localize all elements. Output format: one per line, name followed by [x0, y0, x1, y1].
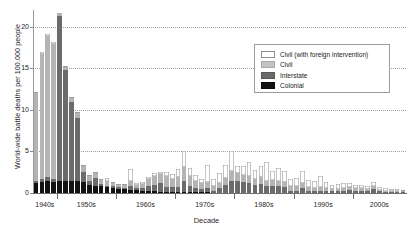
bar-segment-interstate: [300, 188, 305, 193]
bar-column: [128, 169, 133, 193]
y-tick-mark: [30, 193, 33, 194]
bar-segment-civil: [34, 93, 39, 180]
bar-column: [51, 42, 56, 193]
bar-column: [377, 187, 382, 193]
bar-segment-colonial: [134, 190, 139, 193]
bar-segment-interstate: [93, 178, 98, 185]
bar-segment-interstate: [294, 191, 299, 193]
bar-segment-civil: [152, 176, 157, 184]
bar-column: [324, 182, 329, 193]
bar-column: [341, 183, 346, 193]
bar-column: [288, 179, 293, 193]
y-tick-label: 10: [0, 106, 29, 113]
bar-segment-civil: [193, 181, 198, 188]
bar-segment-interstate: [359, 191, 364, 193]
bar-segment-civil: [40, 54, 45, 179]
bar-segment-interstate: [57, 16, 62, 181]
bar-column: [235, 166, 240, 193]
bar-segment-interstate: [182, 181, 187, 193]
legend-label: Civil (with foreign intervention): [280, 51, 368, 58]
bar-column: [45, 34, 50, 193]
bar-segment-civil: [235, 173, 240, 181]
bar-segment-civil: [182, 167, 187, 180]
bar-column: [401, 190, 406, 193]
bar-segment-interstate: [377, 191, 382, 193]
bar-segment-colonial: [146, 191, 151, 193]
bar-segment-colonial: [176, 192, 181, 193]
x-tick-label: 1990s: [301, 201, 345, 208]
bar-segment-interstate: [253, 185, 258, 193]
battle-deaths-bar-chart: World-wide battle deaths per 100,000 peo…: [0, 0, 413, 237]
bar-column: [365, 186, 370, 193]
bar-segment-civil: [188, 176, 193, 186]
bar-segment-civilfi: [306, 180, 311, 187]
bar-segment-civil: [259, 177, 264, 184]
x-tick-mark: [234, 193, 235, 199]
x-axis-line: [33, 193, 407, 194]
y-tick-label: 5: [0, 147, 29, 154]
bar-segment-colonial: [99, 186, 104, 193]
legend-swatch-civilfi: [261, 51, 275, 58]
x-tick-label: 1940s: [23, 201, 67, 208]
bar-segment-interstate: [347, 190, 352, 193]
bar-column: [182, 151, 187, 193]
bar-segment-interstate: [152, 185, 157, 192]
bar-segment-interstate: [383, 192, 388, 193]
plot-area: [33, 10, 406, 193]
bar-column: [99, 179, 104, 193]
bar-column: [389, 189, 394, 193]
x-tick-mark: [353, 193, 354, 199]
bar-segment-colonial: [93, 186, 98, 193]
bar-segment-civil: [158, 174, 163, 183]
bar-column: [217, 173, 222, 193]
bar-column: [116, 184, 121, 193]
legend-label: Colonial: [280, 82, 304, 89]
x-tick-mark: [175, 193, 176, 199]
bar-segment-civilfi: [211, 179, 216, 186]
bar-column: [330, 185, 335, 193]
bar-column: [176, 169, 181, 193]
bar-segment-interstate: [81, 172, 86, 182]
legend-item: Interstate: [261, 70, 385, 81]
bar-column: [140, 182, 145, 193]
bar-segment-civilfi: [318, 176, 323, 187]
y-tick-label: 20: [0, 23, 29, 30]
x-tick-label: 2000s: [357, 201, 401, 208]
bar-segment-interstate: [235, 181, 240, 193]
bar-segment-civil: [51, 44, 56, 179]
bar-segment-civil: [229, 171, 234, 181]
y-tick-mark: [30, 110, 33, 111]
bar-column: [282, 171, 287, 193]
bar-segment-interstate: [63, 70, 68, 181]
y-axis-title: World-wide battle deaths per 100,000 peo…: [13, 12, 22, 182]
bar-segment-civil: [223, 178, 228, 185]
bar-series-group: [33, 10, 406, 193]
bar-segment-civil: [170, 179, 175, 187]
bar-segment-interstate: [365, 191, 370, 193]
x-tick-label: 1960s: [123, 201, 167, 208]
bar-column: [259, 166, 264, 193]
bar-segment-civilfi: [182, 151, 187, 168]
bar-segment-colonial: [111, 188, 116, 193]
bar-segment-colonial: [199, 192, 204, 193]
y-tick-mark: [30, 151, 33, 152]
bar-segment-interstate: [401, 192, 406, 193]
bar-segment-interstate: [69, 102, 74, 181]
bar-segment-colonial: [57, 181, 62, 193]
bar-segment-colonial: [105, 187, 110, 193]
bar-segment-interstate: [247, 183, 252, 193]
bar-segment-civilfi: [217, 173, 222, 183]
bar-segment-interstate: [264, 186, 269, 193]
bar-segment-civilfi: [253, 170, 258, 179]
bar-segment-interstate: [353, 191, 358, 193]
bar-segment-interstate: [188, 186, 193, 193]
bar-segment-interstate: [259, 184, 264, 193]
bar-segment-civil: [81, 166, 86, 173]
bar-column: [294, 178, 299, 193]
bar-segment-colonial: [40, 182, 45, 193]
legend-label: Civil: [280, 61, 292, 68]
bar-segment-colonial: [152, 191, 157, 193]
bar-segment-civil: [146, 179, 151, 186]
bar-column: [122, 184, 127, 193]
bar-segment-civilfi: [205, 165, 210, 181]
